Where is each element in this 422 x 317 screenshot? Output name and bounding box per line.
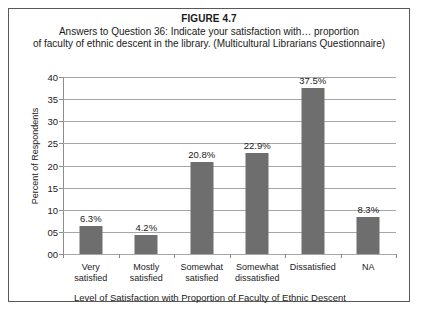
- figure-number-label: FIGURE 4.7: [9, 13, 409, 26]
- x-axis-category-label: Verysatisfied: [63, 262, 119, 284]
- x-axis-category-label-line: satisfied: [174, 273, 230, 284]
- bar[interactable]: [246, 153, 269, 254]
- bar-value-label: 37.5%: [299, 75, 326, 86]
- y-axis-tick-label: 05: [47, 226, 58, 237]
- x-axis-tickmark: [285, 254, 286, 258]
- x-axis-category-label: NA: [341, 262, 397, 273]
- x-axis-category-label: Dissatisfied: [285, 262, 341, 273]
- y-axis-tick-label: 25: [47, 138, 58, 149]
- x-axis-category-label-line: satisfied: [63, 273, 119, 284]
- x-axis-tickmark: [174, 254, 175, 258]
- x-axis-title: Level of Satisfaction with Proportion of…: [9, 292, 411, 303]
- x-axis-category-label-line: satisfied: [119, 273, 175, 284]
- figure-caption-line-2: of faculty of ethnic descent in the libr…: [9, 38, 409, 51]
- x-axis-tickmark: [341, 254, 342, 258]
- x-axis-tickmark: [63, 254, 64, 258]
- y-axis-tick-label: 00: [47, 249, 58, 260]
- figure-frame: FIGURE 4.7 Answers to Question 36: Indic…: [8, 8, 410, 302]
- y-axis-tick-label: 15: [47, 182, 58, 193]
- x-axis-category-label-line: Mostly: [119, 262, 175, 273]
- figure-caption-line-1: Answers to Question 36: Indicate your sa…: [9, 26, 409, 39]
- x-axis-category-label-line: Very: [63, 262, 119, 273]
- figure-caption: FIGURE 4.7 Answers to Question 36: Indic…: [9, 13, 409, 51]
- y-axis-tick-label: 40: [47, 72, 58, 83]
- x-axis-category-label-line: Somewhat: [174, 262, 230, 273]
- x-axis-category-label: Mostlysatisfied: [119, 262, 175, 284]
- x-axis-tickmark: [230, 254, 231, 258]
- bar[interactable]: [79, 226, 102, 254]
- bar-slot: 4.2%: [119, 77, 175, 254]
- y-axis-tick-label: 10: [47, 204, 58, 215]
- bar-slot: 20.8%: [174, 77, 230, 254]
- y-axis-tick-label: 35: [47, 94, 58, 105]
- bar-series: 6.3%4.2%20.8%22.9%37.5%8.3%: [63, 77, 396, 254]
- bar-slot: 8.3%: [341, 77, 397, 254]
- bar-value-label: 6.3%: [80, 213, 102, 224]
- x-axis-category-label: Somewhatsatisfied: [174, 262, 230, 284]
- x-axis-tickmark: [396, 254, 397, 258]
- plot-area: 000510152025303540 6.3%4.2%20.8%22.9%37.…: [63, 77, 396, 254]
- x-axis-tickmark: [119, 254, 120, 258]
- x-axis-category-label-line: NA: [341, 262, 397, 273]
- bar[interactable]: [357, 217, 380, 254]
- bar[interactable]: [190, 162, 213, 254]
- bar-slot: 22.9%: [230, 77, 286, 254]
- y-axis-title: Percent of Respondents: [30, 86, 40, 226]
- x-axis-category-label-line: dissatisfied: [230, 273, 286, 284]
- bar-slot: 6.3%: [63, 77, 119, 254]
- bar-value-label: 20.8%: [188, 149, 215, 160]
- bar-slot: 37.5%: [285, 77, 341, 254]
- x-axis-category-label-line: Somewhat: [230, 262, 286, 273]
- bar-value-label: 4.2%: [135, 222, 157, 233]
- bar-value-label: 22.9%: [244, 140, 271, 151]
- x-axis-category-label: Somewhatdissatisfied: [230, 262, 286, 284]
- y-axis-tick-label: 20: [47, 160, 58, 171]
- bar[interactable]: [301, 88, 324, 254]
- x-axis-category-label-line: Dissatisfied: [285, 262, 341, 273]
- bar-chart: Percent of Respondents 00051015202530354…: [9, 59, 411, 303]
- y-axis-tick-label: 30: [47, 116, 58, 127]
- bar[interactable]: [135, 235, 158, 254]
- bar-value-label: 8.3%: [357, 204, 379, 215]
